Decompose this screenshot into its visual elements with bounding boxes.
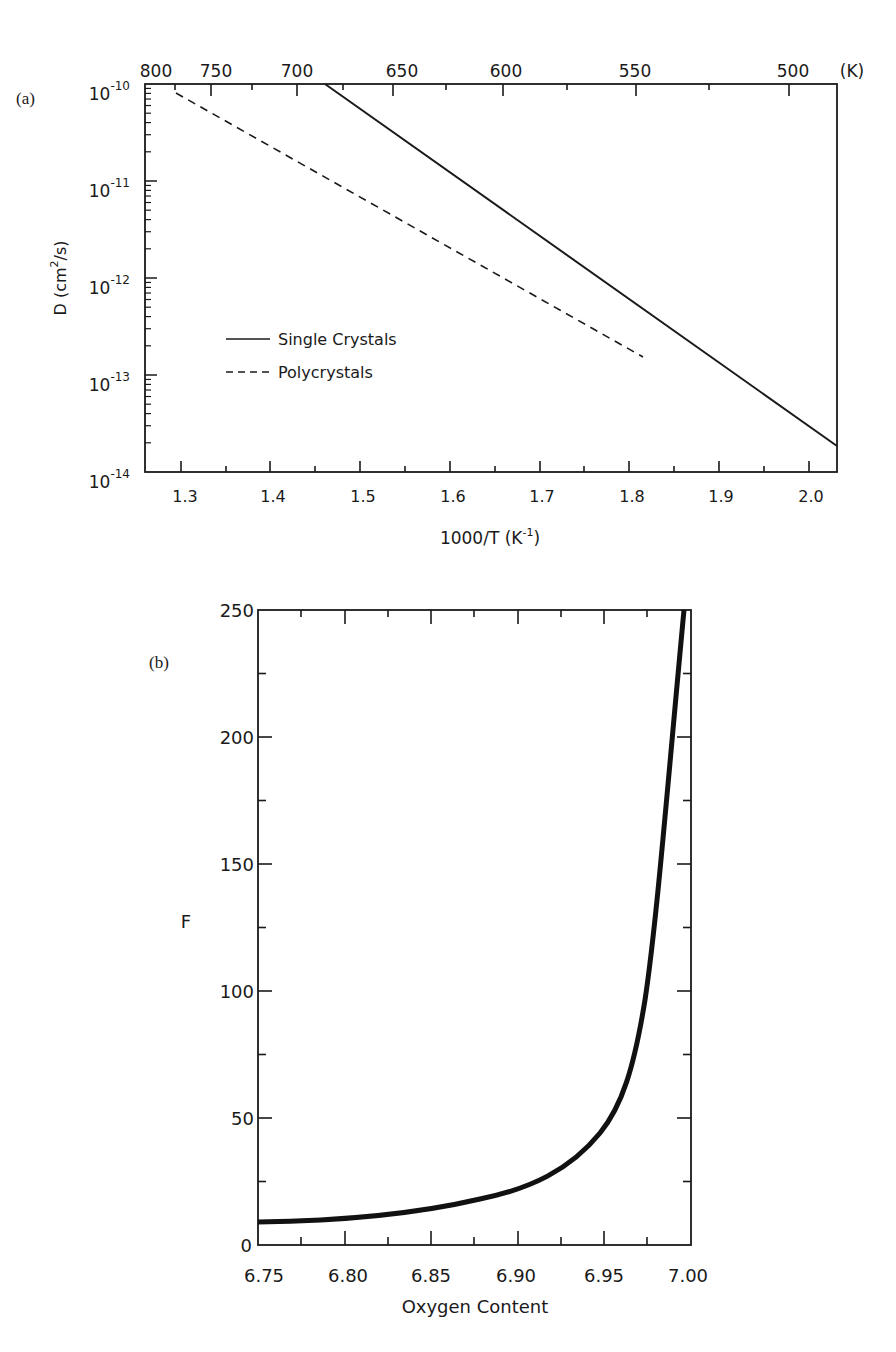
x-axis-title-b: Oxygen Content: [402, 1296, 549, 1317]
x-axis-title-a: 1000/T (K-1): [440, 526, 540, 548]
x-tick-label: 6.95: [584, 1265, 624, 1286]
x-tick-label: 6.85: [411, 1265, 451, 1286]
plot-frame-b: [258, 610, 691, 1245]
legend-polycrystals: Polycrystals: [278, 363, 373, 382]
top-tick-label: 550: [619, 61, 651, 81]
x-tick-label: 1.8: [619, 487, 644, 506]
top-tick-label: 750: [200, 61, 232, 81]
y-tick-label: 10-11: [89, 176, 130, 201]
plot-frame-a: [145, 84, 837, 472]
y-tick-label: 10-10: [89, 79, 130, 104]
series-polycrystals: [176, 93, 643, 357]
y-tick-label: 100: [220, 981, 254, 1002]
y-axis-title-b: F: [181, 911, 191, 932]
y-axis-labels-b: 0 50 100 150 200 250: [220, 600, 254, 1256]
top-tick-label: 500: [777, 61, 809, 81]
series-f-curve: [258, 610, 684, 1222]
top-tick-label: 800: [140, 61, 172, 81]
top-axis-unit: (K): [840, 61, 864, 81]
x-tick-label: 1.5: [350, 487, 375, 506]
x-tick-label: 1.6: [440, 487, 465, 506]
top-axis-ticks: [175, 84, 789, 96]
y-tick-label: 50: [231, 1108, 254, 1129]
top-tick-label: 700: [281, 61, 313, 81]
x-tick-label: 7.00: [668, 1265, 708, 1286]
x-tick-label: 1.3: [172, 487, 197, 506]
y-tick-label: 10-12: [89, 273, 130, 298]
panel-label-a: (a): [16, 89, 35, 108]
panel-label-b: (b): [149, 653, 169, 672]
y-tick-label: 10-13: [89, 370, 130, 395]
bottom-axis-ticks: [181, 461, 809, 472]
figure: (a) 800 750 700 650 600 550 500: [0, 0, 896, 1352]
y-tick-label: 150: [220, 854, 254, 875]
x-axis-ticks-b: [301, 610, 647, 1245]
bottom-axis-labels: 1.3 1.4 1.5 1.6 1.7 1.8 1.9 2.0: [172, 487, 823, 506]
x-tick-label: 6.80: [328, 1265, 368, 1286]
series-single-crystals: [325, 84, 837, 446]
chart-a: (a) 800 750 700 650 600 550 500: [16, 61, 864, 548]
x-tick-label: 6.75: [244, 1265, 284, 1286]
x-tick-label: 6.90: [496, 1265, 536, 1286]
y-tick-label: 250: [220, 600, 254, 621]
y-axis-title-a: D (cm2/s): [48, 241, 70, 316]
top-tick-label: 650: [386, 61, 418, 81]
chart-b: (b): [149, 600, 708, 1317]
x-tick-label: 1.9: [708, 487, 733, 506]
y-tick-label: 200: [220, 727, 254, 748]
x-tick-label: 2.0: [798, 487, 823, 506]
legend-a: Single Crystals Polycrystals: [226, 330, 397, 382]
x-tick-label: 1.7: [529, 487, 554, 506]
y-tick-label: 10-14: [89, 467, 130, 492]
legend-single-crystals: Single Crystals: [278, 330, 397, 349]
top-tick-label: 600: [490, 61, 522, 81]
y-tick-label: 0: [241, 1235, 252, 1256]
y-axis-labels-a: 10-10 10-11 10-12 10-13 10-14: [89, 79, 130, 492]
x-axis-labels-b: 6.75 6.80 6.85 6.90 6.95 7.00: [244, 1265, 708, 1286]
top-axis-labels: 800 750 700 650 600 550 500 (K): [140, 61, 864, 81]
x-tick-label: 1.4: [260, 487, 285, 506]
y-axis-ticks-b: [258, 674, 691, 1182]
